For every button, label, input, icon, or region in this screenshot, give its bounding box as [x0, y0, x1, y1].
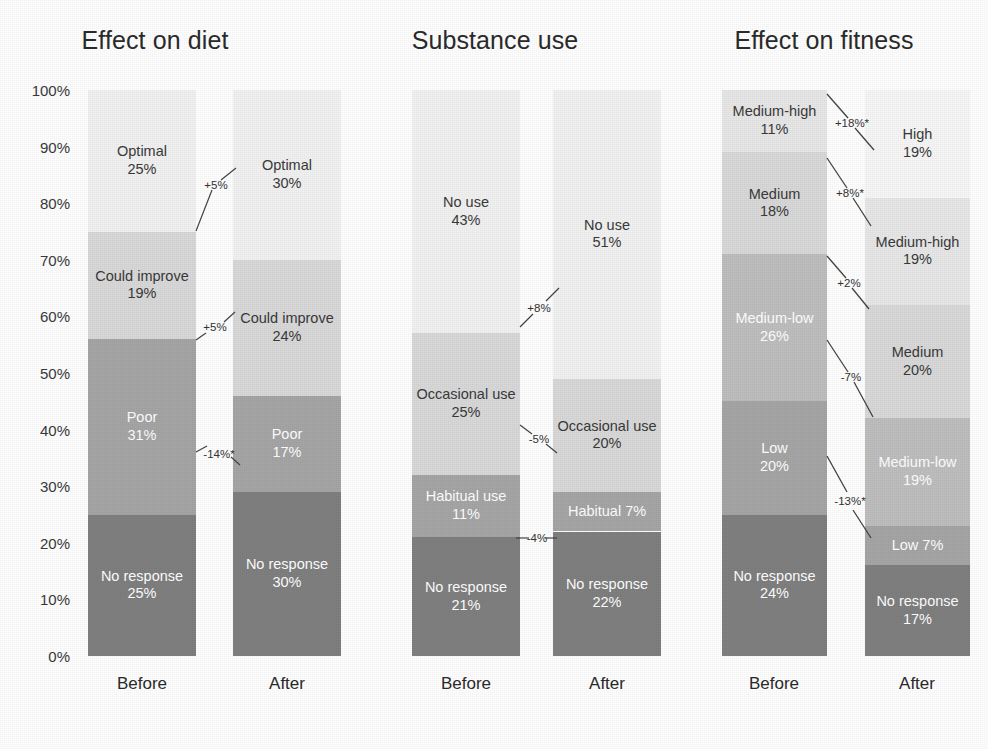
x-label-fitness-before: Before [749, 674, 799, 694]
segment-substance-after-no-use[interactable]: No use 51% [553, 90, 661, 379]
segment-value: 22% [592, 594, 621, 612]
segment-substance-before-occasional-use[interactable]: Occasional use 25% [412, 333, 520, 475]
segment-fitness-before-medium[interactable]: Medium 18% [722, 152, 827, 254]
segment-value: 26% [760, 328, 789, 346]
bar-fitness-after[interactable]: High 19% Medium-high 19% Medium 20% Medi… [865, 90, 970, 656]
delta-diet-could-improve: +5% [203, 321, 226, 333]
segment-substance-before-no-response[interactable]: No response 21% [412, 537, 520, 656]
delta-substance-occasional-use: -5% [529, 433, 549, 445]
segment-substance-before-habitual-use[interactable]: Habitual use 11% [412, 475, 520, 537]
segment-substance-before-no-use[interactable]: No use 43% [412, 90, 520, 333]
segment-label: No response [876, 593, 958, 611]
segment-label: Medium [892, 344, 944, 362]
segment-value: 19% [127, 285, 156, 303]
segment-value: 11% [452, 506, 480, 524]
segment-label: Could improve [240, 310, 334, 328]
segment-value: 19% [903, 144, 932, 162]
delta-substance-habitual-use: -4% [527, 532, 547, 544]
segment-diet-after-optimal[interactable]: Optimal 30% [233, 90, 341, 260]
segment-fitness-before-medium-high[interactable]: Medium-high 11% [722, 90, 827, 152]
bar-fitness-before[interactable]: Medium-high 11% Medium 18% Medium-low 26… [722, 90, 827, 656]
segment-value: 20% [592, 435, 621, 453]
segment-label: Poor [272, 426, 303, 444]
segment-diet-before-poor[interactable]: Poor 31% [88, 339, 196, 515]
segment-label: Medium-high [876, 234, 960, 252]
segment-value: 25% [127, 161, 156, 179]
segment-diet-before-optimal[interactable]: Optimal 25% [88, 90, 196, 232]
x-label-diet-after: After [269, 674, 305, 694]
panel-title-fitness: Effect on fitness [684, 26, 964, 55]
segment-label: Low 7% [892, 537, 944, 555]
segment-value: 51% [592, 234, 621, 252]
segment-label: Occasional use [557, 418, 656, 436]
segment-fitness-after-no-response[interactable]: No response 17% [865, 565, 970, 656]
delta-fitness-medium-high: +8%* [836, 187, 864, 199]
segment-value: 19% [903, 472, 932, 490]
segment-label: No response [566, 576, 648, 594]
segment-fitness-before-medium-low[interactable]: Medium-low 26% [722, 254, 827, 401]
segment-value: 43% [451, 212, 480, 230]
segment-label: Habitual 7% [568, 503, 646, 521]
bar-diet-after[interactable]: Optimal 30% Could improve 24% Poor 17% N… [233, 90, 341, 656]
segment-fitness-after-high[interactable]: High 19% [865, 90, 970, 198]
segment-label: Medium-low [878, 454, 956, 472]
segment-fitness-before-low[interactable]: Low 20% [722, 401, 827, 514]
segment-fitness-before-no-response[interactable]: No response 24% [722, 515, 827, 656]
segment-value: 24% [760, 585, 789, 603]
segment-label: Medium-low [735, 310, 813, 328]
segment-diet-after-poor[interactable]: Poor 17% [233, 396, 341, 492]
segment-value: 25% [451, 404, 480, 422]
segment-label: Optimal [262, 157, 312, 175]
delta-fitness-medium: +2% [837, 277, 860, 289]
x-label-fitness-after: After [899, 674, 935, 694]
x-label-substance-before: Before [441, 674, 491, 694]
panel-title-substance: Substance use [350, 26, 640, 55]
segment-fitness-after-low[interactable]: Low 7% [865, 526, 970, 566]
segment-diet-after-no-response[interactable]: No response 30% [233, 492, 341, 656]
panel-title-diet: Effect on diet [10, 26, 300, 55]
delta-fitness-high: +18%* [835, 117, 869, 129]
segment-substance-after-habitual[interactable]: Habitual 7% [553, 492, 661, 532]
segment-value: 30% [272, 574, 301, 592]
segment-value: 11% [761, 121, 789, 139]
segment-fitness-after-medium-low[interactable]: Medium-low 19% [865, 418, 970, 526]
segment-label: High [903, 126, 933, 144]
segment-diet-before-could-improve[interactable]: Could improve 19% [88, 232, 196, 340]
segment-value: 17% [272, 444, 301, 462]
segment-value: 30% [272, 175, 301, 193]
segment-label: Occasional use [416, 386, 515, 404]
segment-label: No use [584, 217, 630, 235]
panel-effect-on-diet: Effect on diet Optimal 25% Could improve… [0, 0, 330, 749]
segment-label: Low [761, 440, 788, 458]
segment-label: Habitual use [426, 488, 507, 506]
bar-substance-after[interactable]: No use 51% Occasional use 20% Habitual 7… [553, 90, 661, 656]
x-label-substance-after: After [589, 674, 625, 694]
segment-substance-after-no-response[interactable]: No response 22% [553, 532, 661, 657]
segment-label: No response [101, 568, 183, 586]
segment-value: 17% [903, 611, 932, 629]
segment-value: 20% [903, 362, 932, 380]
segment-value: 20% [760, 458, 789, 476]
segment-label: Medium-high [733, 103, 817, 121]
segment-diet-after-could-improve[interactable]: Could improve 24% [233, 260, 341, 396]
segment-label: Optimal [117, 143, 167, 161]
segment-value: 18% [760, 203, 789, 221]
delta-fitness-medium-low: -7% [841, 371, 861, 383]
segment-value: 25% [127, 585, 156, 603]
segment-label: No use [443, 194, 489, 212]
delta-diet-optimal: +5% [204, 179, 227, 191]
delta-fitness-low: -13%* [834, 495, 865, 507]
segment-fitness-after-medium-high[interactable]: Medium-high 19% [865, 198, 970, 306]
bar-substance-before[interactable]: No use 43% Occasional use 25% Habitual u… [412, 90, 520, 656]
segment-value: 21% [451, 597, 480, 615]
delta-diet-poor: -14%* [203, 448, 234, 460]
panel-substance-use: Substance use No use 43% Occasional use … [330, 0, 670, 749]
bar-diet-before[interactable]: Optimal 25% Could improve 19% Poor 31% N… [88, 90, 196, 656]
segment-diet-before-no-response[interactable]: No response 25% [88, 515, 196, 657]
segment-label: Could improve [95, 268, 189, 286]
delta-substance-no-use: +8% [527, 302, 550, 314]
segment-label: No response [246, 556, 328, 574]
segment-fitness-after-medium[interactable]: Medium 20% [865, 305, 970, 418]
segment-substance-after-occasional-use[interactable]: Occasional use 20% [553, 379, 661, 492]
panel-effect-on-fitness: Effect on fitness Medium-high 11% Medium… [670, 0, 988, 749]
